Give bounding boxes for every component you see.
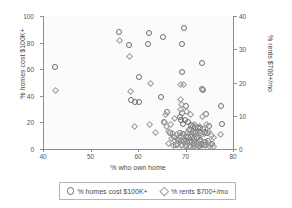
- data-point-homes: [181, 25, 187, 31]
- circle-marker-icon: [67, 187, 75, 195]
- y-right-tick: [234, 49, 237, 50]
- x-tick: [186, 149, 187, 152]
- y-right-tick: [234, 16, 237, 17]
- data-point-homes: [116, 29, 122, 35]
- data-point-homes: [199, 60, 205, 66]
- y-left-tick: [40, 16, 43, 17]
- data-point-homes: [145, 41, 151, 47]
- y-left-tick: [40, 149, 43, 150]
- x-tick-label: 70: [182, 153, 189, 160]
- data-point-homes: [52, 64, 58, 70]
- y-right-tick: [234, 149, 237, 150]
- legend-item-rents[interactable]: % rents $700+/mo: [161, 188, 228, 195]
- y-left-tick-label: 80: [0, 39, 34, 46]
- x-tick: [91, 149, 92, 152]
- x-tick: [138, 149, 139, 152]
- y-left-tick-label: 100: [0, 13, 34, 20]
- y-left-tick: [40, 69, 43, 70]
- y-left-tick-label: 20: [0, 119, 34, 126]
- y-right-tick-label: 30: [239, 46, 246, 53]
- y-left-tick: [40, 122, 43, 123]
- y-left-tick-label: 60: [0, 66, 34, 73]
- y-right-tick-label: 10: [239, 112, 246, 119]
- x-axis-title: % who own home: [43, 164, 233, 171]
- x-tick: [43, 149, 44, 152]
- x-tick-label: 60: [134, 153, 141, 160]
- y-axis-left-line: [43, 16, 44, 149]
- data-point-homes: [179, 69, 185, 75]
- data-point-homes: [126, 42, 132, 48]
- legend-label-homes: % homes cost $100K+: [77, 188, 147, 195]
- x-tick-label: 50: [87, 153, 94, 160]
- y-axis-left-title: % homes cost $100K+: [19, 0, 26, 134]
- y-right-tick-label: 40: [239, 13, 246, 20]
- legend-label-rents: % rents $700+/mo: [171, 188, 228, 195]
- x-tick-label: 40: [39, 153, 46, 160]
- y-left-tick: [40, 96, 43, 97]
- data-point-homes: [219, 121, 225, 127]
- y-right-tick: [234, 83, 237, 84]
- y-left-tick-label: 40: [0, 92, 34, 99]
- y-left-tick-label: 0: [0, 146, 34, 153]
- diamond-marker-icon: [160, 186, 169, 195]
- scatter-chart: 4050607080020406080100010203040 % who ow…: [0, 0, 292, 208]
- legend-item-homes[interactable]: % homes cost $100K+: [67, 187, 148, 195]
- chart-legend: % homes cost $100K+ % rents $700+/mo: [59, 182, 236, 200]
- y-left-tick: [40, 43, 43, 44]
- y-right-tick-label: 0: [239, 146, 243, 153]
- x-tick-label: 80: [229, 153, 236, 160]
- y-right-tick-label: 20: [239, 79, 246, 86]
- y-axis-right-title: % rents $700+/mo: [267, 0, 274, 134]
- y-right-tick: [234, 116, 237, 117]
